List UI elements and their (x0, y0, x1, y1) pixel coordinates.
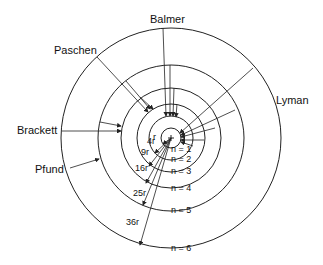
label-n2: n = 2 (171, 155, 191, 164)
label-n6: n = 6 (171, 244, 191, 253)
label-brackett: Brackett (17, 125, 57, 136)
label-n4: n = 4 (171, 184, 191, 193)
label-paschen: Paschen (54, 45, 97, 56)
label-radius-16r: 16r (135, 164, 148, 173)
label-radius-9r: 9r (141, 148, 149, 157)
label-radius-4r: 4r (147, 137, 155, 146)
label-n1: n = 1 (171, 145, 191, 154)
label-radius-25r: 25r (133, 189, 146, 198)
label-pfund: Pfund (35, 164, 64, 175)
label-lyman: Lyman (276, 95, 309, 106)
label-n5: n = 5 (171, 206, 191, 215)
label-n3: n = 3 (171, 167, 191, 176)
label-radius-36r: 36r (126, 218, 139, 227)
label-balmer: Balmer (150, 14, 185, 25)
